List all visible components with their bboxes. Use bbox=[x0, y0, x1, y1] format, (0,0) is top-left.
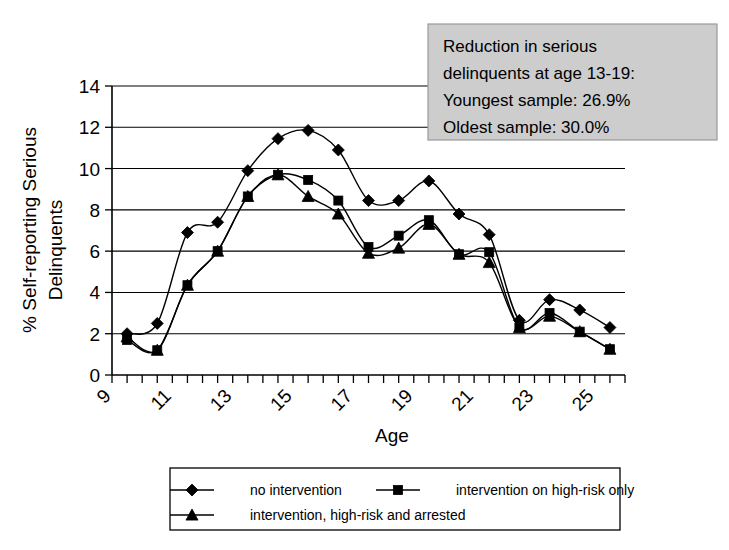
data-point-square bbox=[394, 486, 403, 495]
legend-label: intervention, high-risk and arrested bbox=[250, 507, 466, 523]
y-axis-title-line2: Delinquents bbox=[45, 200, 66, 300]
y-tick-label: 10 bbox=[79, 159, 100, 180]
data-point-square bbox=[394, 231, 403, 240]
data-point-square bbox=[304, 175, 313, 184]
y-tick-label: 2 bbox=[89, 324, 100, 345]
reduction-callout-line-2: delinquents at age 13-19: bbox=[443, 64, 635, 83]
chart-legend: no interventionintervention on high-risk… bbox=[170, 468, 634, 530]
y-axis-title-line1: % Self-reporting Serious bbox=[19, 127, 40, 333]
reduction-callout-line-3: Youngest sample: 26.9% bbox=[443, 91, 630, 110]
reduction-callout-line-4: Oldest sample: 30.0% bbox=[443, 118, 609, 137]
y-tick-label: 14 bbox=[79, 76, 101, 97]
data-point-square bbox=[485, 248, 494, 257]
reduction-callout-line-1: Reduction in serious bbox=[443, 37, 597, 56]
y-tick-label: 0 bbox=[89, 365, 100, 386]
delinquency-line-chart: 02468101214 91113151719212325 % Self-rep… bbox=[0, 0, 729, 550]
x-axis-title: Age bbox=[375, 425, 409, 446]
y-tick-label: 12 bbox=[79, 117, 100, 138]
y-tick-label: 4 bbox=[89, 282, 100, 303]
y-tick-label: 8 bbox=[89, 200, 100, 221]
chart-container: 02468101214 91113151719212325 % Self-rep… bbox=[0, 0, 729, 550]
legend-label: no intervention bbox=[250, 482, 342, 498]
legend-label: intervention on high-risk only bbox=[456, 482, 634, 498]
reduction-callout: Reduction in serious delinquents at age … bbox=[428, 24, 717, 140]
data-point-square bbox=[334, 196, 343, 205]
y-tick-label: 6 bbox=[89, 241, 100, 262]
